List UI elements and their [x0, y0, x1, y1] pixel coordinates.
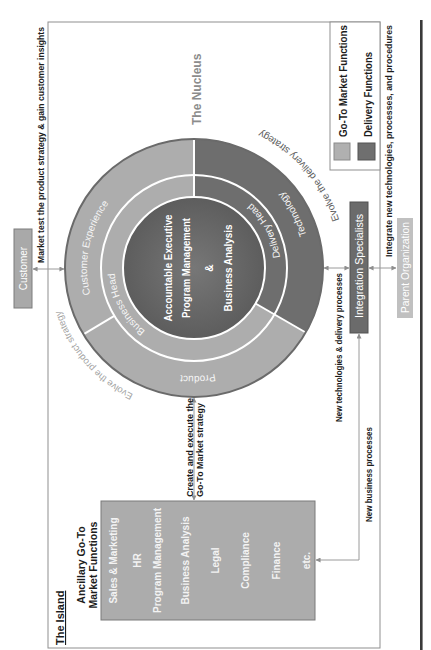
- parent-organization-label: Parent Organization: [400, 222, 411, 313]
- function-item: Program Management: [152, 507, 163, 613]
- function-item: HR: [132, 553, 143, 568]
- core-label-line1: Accountable Executive: [163, 214, 174, 321]
- function-item: Compliance: [240, 532, 251, 589]
- segment-product: Product: [179, 372, 216, 385]
- nucleus-diagram: Customer Experience Product Technology B…: [65, 139, 323, 397]
- organization-boundary-line: [420, 20, 423, 650]
- legend-swatch-delivery: [358, 143, 375, 160]
- legend-label-go-to-market: Go-To Market Functions: [338, 25, 349, 137]
- customer-flow-label: Market test the product strategy & gain …: [36, 27, 46, 263]
- integration-specialists-label: Integration Specialists: [354, 214, 365, 318]
- function-item: Business Analysis: [180, 516, 191, 604]
- core-circle: [123, 197, 265, 339]
- nucleus-title: The Nucleus: [190, 53, 204, 125]
- go-to-market-label-line2: Go-To Market strategy: [195, 403, 205, 497]
- customer-node: Customer: [14, 229, 32, 308]
- organization-diagram: The Island Ancillary Go-To Market Functi…: [0, 0, 431, 650]
- parent-organization-node: Parent Organization: [397, 218, 413, 318]
- ancillary-functions-box: Sales & Marketing HR Program Management …: [101, 501, 315, 620]
- core-label-line2: Program Management: [181, 217, 192, 318]
- core-label-line3: &: [204, 264, 215, 271]
- island-heading-line2: Market Functions: [87, 521, 99, 608]
- product-label: Product: [179, 372, 216, 385]
- function-item: Finance: [271, 541, 282, 579]
- legend-label-delivery: Delivery Functions: [363, 52, 374, 137]
- function-item: Legal: [210, 547, 221, 573]
- integrate-label: Integrate new technologies, processes, a…: [384, 25, 394, 257]
- legend-swatch-go-to-market: [334, 143, 350, 160]
- integration-specialists-node: Integration Specialists: [350, 202, 368, 333]
- island-title: The Island: [54, 591, 66, 645]
- core-label-line4: Business Analysis: [223, 224, 234, 311]
- island-heading-line1: Ancillary Go-To: [75, 526, 87, 603]
- diagram-canvas: The Island Ancillary Go-To Market Functi…: [0, 0, 431, 650]
- function-item: etc.: [301, 552, 312, 569]
- diagram-page: The Island Ancillary Go-To Market Functi…: [0, 0, 431, 650]
- function-item: Sales & Marketing: [108, 517, 119, 603]
- customer-label: Customer: [18, 246, 29, 290]
- new-technologies-label: New technologies & delivery processes: [334, 273, 344, 422]
- go-to-market-label-line1: Create and execute the: [185, 398, 195, 497]
- legend: Go-To Market Functions Delivery Function…: [330, 22, 380, 170]
- new-business-label: New business processes: [364, 427, 374, 522]
